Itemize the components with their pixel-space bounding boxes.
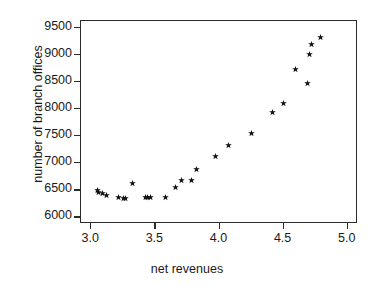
y-tick-label: 7500 bbox=[28, 127, 72, 141]
data-point bbox=[269, 109, 276, 116]
data-point bbox=[212, 153, 219, 160]
data-point bbox=[172, 184, 179, 191]
y-tick-label: 6000 bbox=[28, 208, 72, 222]
data-point bbox=[122, 195, 129, 202]
x-tick bbox=[219, 223, 220, 229]
data-point bbox=[193, 166, 200, 173]
y-tick-label: 6500 bbox=[28, 181, 72, 195]
y-tick-label: 9000 bbox=[28, 46, 72, 60]
x-tick-label: 3.0 bbox=[70, 231, 110, 245]
y-tick-label: 8500 bbox=[28, 73, 72, 87]
data-point bbox=[308, 41, 315, 48]
x-tick-label: 3.5 bbox=[134, 231, 174, 245]
x-axis-title: net revenues bbox=[0, 262, 374, 276]
data-point bbox=[188, 177, 195, 184]
plot-area bbox=[80, 20, 357, 223]
y-tick-label: 7000 bbox=[28, 154, 72, 168]
x-tick-label: 5.0 bbox=[327, 231, 367, 245]
data-point-layer bbox=[81, 21, 356, 222]
x-tick bbox=[90, 223, 91, 229]
y-tick-label: 9500 bbox=[28, 19, 72, 33]
data-point bbox=[225, 142, 232, 149]
data-point bbox=[178, 177, 185, 184]
data-point bbox=[248, 130, 255, 137]
x-tick bbox=[347, 223, 348, 229]
x-tick bbox=[283, 223, 284, 229]
data-point bbox=[147, 194, 154, 201]
chart-page: number of branch offices 600065007000750… bbox=[0, 0, 374, 287]
y-tick-label: 8000 bbox=[28, 100, 72, 114]
data-point bbox=[304, 80, 311, 87]
data-point bbox=[129, 180, 136, 187]
data-point bbox=[292, 66, 299, 73]
data-point bbox=[103, 192, 110, 199]
data-point bbox=[162, 194, 169, 201]
x-tick-label: 4.5 bbox=[263, 231, 303, 245]
x-tick bbox=[154, 223, 155, 229]
data-point bbox=[317, 34, 324, 41]
data-point bbox=[306, 51, 313, 58]
data-point bbox=[280, 100, 287, 107]
x-tick-label: 4.0 bbox=[199, 231, 239, 245]
